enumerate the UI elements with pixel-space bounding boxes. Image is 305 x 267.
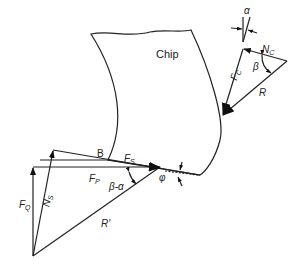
beta-alpha-label: β-α [108,181,124,192]
beta-alpha-arc [129,172,136,184]
alpha-arrow-left [231,28,242,29]
shear-force-label: FS [124,153,135,165]
alpha-arrow-right [248,30,257,33]
beta-arc [262,55,271,73]
normal-chip-label: NC [262,44,275,56]
friction-force-label: FC [228,67,243,82]
friction-force-arrow [223,49,243,114]
point-b-label: B [97,148,104,159]
phi-label: φ [159,172,166,183]
normal-shear-label: NS [40,194,54,208]
alpha-line-slanted [243,17,250,42]
thrust-force-label: FQ [19,199,31,212]
cutting-force-diagram: Chip B FS FP FQ NS β-α R' φ FC NC β [0,0,305,267]
resultant-prime-label: R' [101,218,111,229]
alpha-label: α [244,5,250,16]
phi-arrow-top [180,162,182,170]
chip-label: Chip [156,48,179,60]
resultant-label: R [259,87,266,98]
beta-label: β [252,61,259,72]
phi-arrow-bottom [178,177,182,186]
cutting-force-label: FP [89,173,100,185]
